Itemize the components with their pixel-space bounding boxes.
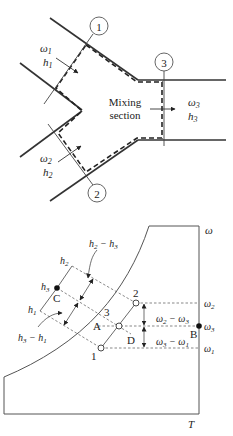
point-b-label: B xyxy=(190,328,197,340)
state-point-2 xyxy=(133,300,139,306)
station2-marker: 2 xyxy=(88,184,106,202)
inlet2-inner-wall xyxy=(20,111,82,157)
temperature-axis-label: T xyxy=(188,418,195,430)
omega3-minus-omega1-label: ω3 − ω1 xyxy=(156,336,189,349)
point-3-label: 3 xyxy=(104,306,110,318)
inlet2-omega-label: ω2 xyxy=(40,152,52,166)
psychrometric-chart: ω T xyxy=(4,224,215,430)
inlet1-h-label: h1 xyxy=(43,56,53,70)
saturation-curve xyxy=(4,226,149,377)
h3-label: h3 xyxy=(41,281,50,294)
omega2-tick-label: ω2 xyxy=(204,298,215,311)
h3-h1-pointer-icon xyxy=(38,313,62,327)
point-a-label: A xyxy=(93,320,101,332)
h1-label: h1 xyxy=(28,304,37,317)
state-point-3 xyxy=(116,323,122,329)
station3-label: 3 xyxy=(161,57,167,69)
station1-marker: 1 xyxy=(90,17,108,35)
h3-h1-arrow-icon xyxy=(64,303,78,325)
point-c-label: C xyxy=(53,292,60,304)
figure-canvas: 1 3 2 ω1 h1 ω2 h2 ω3 h3 Mixing section xyxy=(0,0,233,436)
omega2-minus-omega3-label: ω2 − ω3 xyxy=(156,313,189,326)
h3-minus-h1-label: h3 − h1 xyxy=(18,332,47,345)
station3-marker: 3 xyxy=(155,53,173,71)
point-1-label: 1 xyxy=(91,350,97,362)
outlet-h-label: h3 xyxy=(188,110,198,124)
point-d-label: D xyxy=(127,334,135,346)
point-c xyxy=(54,285,60,291)
h2-h3-arrow-icon xyxy=(80,279,93,300)
station2-line xyxy=(48,124,93,185)
inlet1-omega-label: ω1 xyxy=(40,42,52,56)
state-point-1 xyxy=(98,345,104,351)
mixing-section-label-line2: section xyxy=(109,109,141,121)
mixing-section-label-line1: Mixing xyxy=(109,96,142,108)
mixing-section-diagram: 1 3 2 ω1 h1 ω2 h2 ω3 h3 Mixing section xyxy=(20,17,226,202)
h2-minus-h3-label: h2 − h3 xyxy=(89,238,118,251)
omega1-tick-label: ω1 xyxy=(204,343,215,356)
outlet-omega-label: ω3 xyxy=(188,96,200,110)
h2-h3-pointer-icon xyxy=(88,250,97,278)
omega-axis-label: ω xyxy=(205,224,213,236)
inlet2-h-label: h2 xyxy=(43,166,53,180)
station2-label: 2 xyxy=(94,188,100,200)
h2-label: h2 xyxy=(60,255,69,268)
omega3-tick-label: ω3 xyxy=(204,321,215,334)
station1-label: 1 xyxy=(96,21,102,33)
point-2-label: 2 xyxy=(133,287,139,299)
